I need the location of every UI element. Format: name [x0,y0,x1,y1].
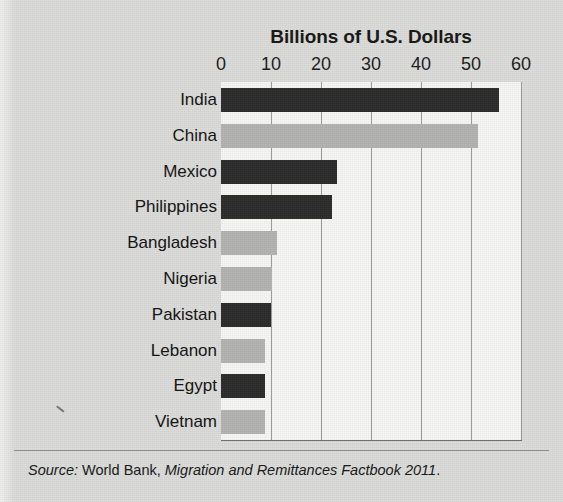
category-label-india: India [2,88,217,112]
category-label-column: IndiaChinaMexicoPhilippinesBangladeshNig… [0,82,217,440]
remittances-bar-chart-figure: Billions of U.S. Dollars 0102030405060 I… [0,0,563,502]
source-work-title: Migration and Remittances Factbook 2011 [165,462,436,478]
category-label-china: China [2,124,217,148]
bar-mexico [221,160,337,184]
source-divider [14,450,549,451]
x-axis-baseline [221,440,522,441]
category-label-egypt: Egypt [2,374,217,398]
source-label: Source: [28,462,78,478]
x-tick-label-30: 30 [361,54,381,75]
category-label-pakistan: Pakistan [2,303,217,327]
bar-lebanon [221,339,265,363]
category-label-lebanon: Lebanon [2,339,217,363]
category-label-vietnam: Vietnam [2,410,217,434]
x-tick-label-20: 20 [311,54,331,75]
bar-india [221,88,499,112]
x-tick-label-40: 40 [411,54,431,75]
x-tick-label-60: 60 [511,54,531,75]
category-label-nigeria: Nigeria [2,267,217,291]
bar-bangladesh [221,231,277,255]
bar-philippines [221,195,332,219]
category-label-mexico: Mexico [2,160,217,184]
source-terminator: . [436,462,440,478]
bar-nigeria [221,267,272,291]
plot-area [221,82,521,440]
category-label-bangladesh: Bangladesh [2,231,217,255]
category-label-philippines: Philippines [2,195,217,219]
x-tick-label-0: 0 [216,54,226,75]
x-tick-label-50: 50 [461,54,481,75]
x-tick-label-10: 10 [261,54,281,75]
bar-china [221,124,478,148]
chart-title: Billions of U.S. Dollars [221,26,521,48]
bar-pakistan [221,303,271,327]
source-note: Source: World Bank, Migration and Remitt… [28,462,440,478]
bar-vietnam [221,410,265,434]
x-axis-tick-labels: 0102030405060 [221,54,521,78]
bar-egypt [221,374,265,398]
gridline-60 [521,82,522,440]
source-publisher: World Bank, [78,462,165,478]
